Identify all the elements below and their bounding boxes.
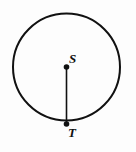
geometry-figure: S T: [0, 0, 136, 152]
point-S-label: S: [69, 52, 76, 65]
point-T-label: T: [68, 126, 76, 139]
